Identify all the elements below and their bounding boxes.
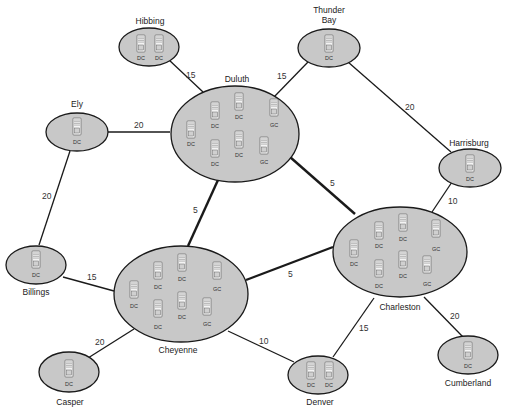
svg-text:DC: DC xyxy=(73,139,81,145)
server-icon[interactable]: GC xyxy=(432,220,440,252)
site-denver[interactable]: Denver DC DC xyxy=(288,356,348,407)
svg-text:GC: GC xyxy=(270,122,278,128)
server-icon[interactable]: DC xyxy=(178,292,186,320)
site-name-charleston: Charleston xyxy=(379,302,420,312)
cost-ely-billings: 20 xyxy=(42,191,52,201)
cost-harrisburg-charleston: 10 xyxy=(448,196,458,206)
svg-text:DC: DC xyxy=(178,276,186,282)
site-cumberland[interactable]: Cumberland DC xyxy=(438,336,498,388)
cost-thunderbay-duluth: 15 xyxy=(277,71,287,81)
server-icon[interactable]: DC xyxy=(399,251,407,279)
server-icon[interactable]: DC xyxy=(73,118,81,145)
site-name-billings: Billings xyxy=(23,287,50,297)
svg-text:DC: DC xyxy=(399,273,407,279)
site-name-denver: Denver xyxy=(306,397,334,407)
server-icon[interactable]: DC xyxy=(235,93,243,120)
server-icon[interactable]: DC xyxy=(307,362,315,388)
server-icon[interactable]: DC xyxy=(375,222,383,249)
site-harrisburg[interactable]: Harrisburg DC xyxy=(439,138,501,187)
site-cheyenne[interactable]: Cheyenne DC DC DC GC DC DC GC xyxy=(114,246,248,355)
svg-text:DC: DC xyxy=(187,141,195,147)
site-name-cheyenne: Cheyenne xyxy=(159,345,198,355)
server-icon[interactable]: DC xyxy=(375,260,383,289)
svg-text:GC: GC xyxy=(260,159,268,165)
site-name-cumberland: Cumberland xyxy=(445,378,492,388)
site-casper[interactable]: Casper DC xyxy=(39,352,99,407)
server-icon[interactable]: DC xyxy=(178,254,186,282)
server-icon[interactable]: DC xyxy=(32,251,40,278)
svg-text:DC: DC xyxy=(375,243,383,249)
svg-text:DC: DC xyxy=(211,161,219,167)
site-name-thunder-bay: Thunder xyxy=(313,5,345,15)
site-charleston[interactable]: Charleston DC DC DC GC DC DC GC xyxy=(333,207,467,312)
server-icon[interactable]: DC xyxy=(211,102,219,129)
server-icon[interactable]: DC xyxy=(235,131,243,158)
svg-text:GC: GC xyxy=(203,321,211,327)
link-duluth-charleston[interactable] xyxy=(290,157,355,214)
server-icon[interactable]: DC xyxy=(154,262,162,290)
cost-billings-cheyenne: 15 xyxy=(87,272,97,282)
server-icon[interactable]: GC xyxy=(423,256,431,287)
server-icon[interactable]: DC xyxy=(137,35,145,61)
cost-cheyenne-casper: 20 xyxy=(95,337,105,347)
site-thunder-bay[interactable]: Thunder Bay DC xyxy=(298,5,360,67)
server-icon[interactable]: DC xyxy=(154,300,162,330)
server-icon[interactable]: DC xyxy=(325,362,333,388)
svg-text:DC: DC xyxy=(466,176,474,182)
cost-cheyenne-charleston: 5 xyxy=(288,269,293,279)
svg-text:DC: DC xyxy=(178,314,186,320)
server-icon[interactable]: DC xyxy=(211,140,219,167)
svg-text:DC: DC xyxy=(130,303,138,309)
site-billings[interactable]: Billings DC xyxy=(6,246,66,297)
site-topology-diagram: 15 15 20 20 20 5 5 10 5 15 20 10 15 20 H… xyxy=(0,0,508,414)
server-icon[interactable]: DC xyxy=(464,342,472,369)
svg-text:GC: GC xyxy=(423,281,431,287)
cost-duluth-cheyenne: 5 xyxy=(193,205,198,215)
server-icon[interactable]: DC xyxy=(65,360,73,387)
site-ely[interactable]: Ely DC xyxy=(46,99,108,151)
svg-text:DC: DC xyxy=(137,55,145,61)
server-icon[interactable]: DC xyxy=(187,121,195,147)
link-thunderbay-harrisburg[interactable] xyxy=(348,62,451,152)
server-icon[interactable]: DC xyxy=(399,214,407,242)
site-hibbing[interactable]: Hibbing DC DC xyxy=(119,16,179,66)
server-icon[interactable]: GC xyxy=(203,298,211,327)
svg-text:DC: DC xyxy=(235,114,243,120)
svg-text:DC: DC xyxy=(375,283,383,289)
cost-thunderbay-harrisburg: 20 xyxy=(405,102,415,112)
site-name-ely: Ely xyxy=(71,99,84,109)
server-icon[interactable]: DC xyxy=(325,35,333,61)
server-icon[interactable]: GC xyxy=(270,99,278,128)
server-icon[interactable]: DC xyxy=(155,35,163,61)
site-name-casper: Casper xyxy=(56,397,84,407)
site-name-harrisburg: Harrisburg xyxy=(449,138,489,148)
svg-text:DC: DC xyxy=(235,152,243,158)
svg-text:GC: GC xyxy=(213,286,221,292)
svg-text:DC: DC xyxy=(325,55,333,61)
cost-ely-duluth: 20 xyxy=(134,120,144,130)
svg-text:DC: DC xyxy=(325,382,333,388)
svg-text:DC: DC xyxy=(350,261,358,267)
server-icon[interactable]: GC xyxy=(213,262,221,292)
site-name-thunder-bay-2: Bay xyxy=(322,15,337,25)
site-name-hibbing: Hibbing xyxy=(136,16,165,26)
svg-text:DC: DC xyxy=(154,284,162,290)
server-icon[interactable]: DC xyxy=(130,281,138,309)
svg-text:DC: DC xyxy=(154,324,162,330)
svg-text:DC: DC xyxy=(32,272,40,278)
svg-text:DC: DC xyxy=(211,123,219,129)
site-name-duluth: Duluth xyxy=(225,74,250,84)
cost-charleston-denver: 15 xyxy=(359,323,369,333)
cost-charleston-cumberland: 20 xyxy=(450,311,460,321)
svg-text:DC: DC xyxy=(155,55,163,61)
svg-text:DC: DC xyxy=(307,382,315,388)
cost-cheyenne-denver: 10 xyxy=(259,336,269,346)
svg-text:DC: DC xyxy=(65,381,73,387)
svg-text:DC: DC xyxy=(464,363,472,369)
server-icon[interactable]: DC xyxy=(466,155,474,182)
svg-text:GC: GC xyxy=(432,246,440,252)
server-icon[interactable]: GC xyxy=(260,137,268,165)
cost-duluth-charleston: 5 xyxy=(330,178,335,188)
server-icon[interactable]: DC xyxy=(350,240,358,267)
cost-hibbing-duluth: 15 xyxy=(186,70,196,80)
